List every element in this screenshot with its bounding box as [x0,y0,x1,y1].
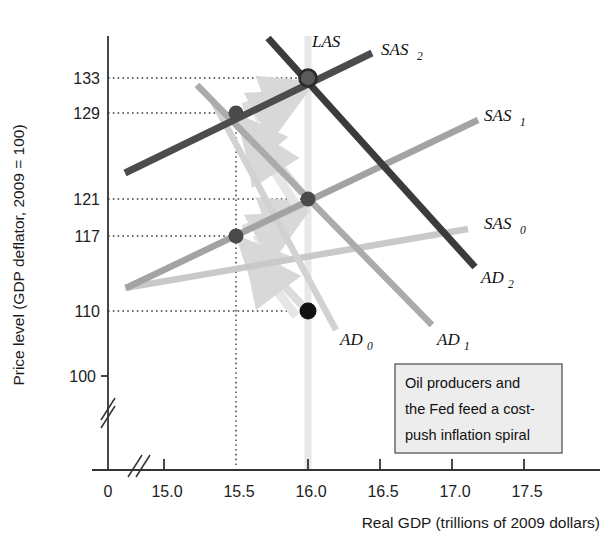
equilibrium-point-110 [300,303,317,320]
chart-canvas: 133 129 121 117 110 100 0 15.0 15.5 16.0… [0,0,613,545]
annotation-line-3: push inflation spiral [405,427,530,443]
sas2-label-sub: 2 [417,50,423,62]
ad0-label: AD [339,330,363,349]
ad2-curve [268,38,475,267]
y-tick-label-129: 129 [73,105,100,122]
ad2-label-sub: 2 [508,278,514,290]
x-tick-label-155: 15.5 [223,483,254,500]
y-tick-label-121: 121 [73,191,100,208]
sas0-label-group: SAS 0 [484,214,526,236]
x-tick-label-170: 17.0 [439,483,470,500]
sas2-label-group: SAS 2 [381,40,423,62]
sas2-label: SAS [381,40,409,59]
equilibrium-point-133 [300,70,317,87]
equilibrium-point-117 [229,229,244,244]
x-axis-break-2 [136,455,150,477]
sas1-label-group: SAS 1 [484,106,526,128]
ad0-label-sub: 0 [367,340,373,352]
y-axis-title: Price level (GDP deflator, 2009 = 100) [10,124,27,385]
ad0-label-group: AD 0 [339,330,373,352]
ad2-label-group: AD 2 [480,268,514,290]
x-axis-title: Real GDP (trillions of 2009 dollars) [362,514,600,531]
y-tick-label-133: 133 [73,70,100,87]
sas1-label: SAS [484,106,512,125]
ad1-label-group: AD 1 [436,330,470,352]
x-axis-break [128,455,142,477]
las-label: LAS [311,32,341,51]
x-tick-label-150: 15.0 [151,483,182,500]
x-tick-label-0: 0 [104,483,113,500]
ad1-label: AD [436,330,460,349]
x-tick-label-165: 16.5 [367,483,398,500]
ad1-label-sub: 1 [464,340,470,352]
x-tick-label-175: 17.5 [511,483,542,500]
sas0-label-sub: 0 [520,224,526,236]
annotation-line-1: Oil producers and [405,375,520,391]
chart-figure: 133 129 121 117 110 100 0 15.0 15.5 16.0… [0,0,613,545]
sas0-label: SAS [484,214,512,233]
ad2-label: AD [480,268,504,287]
y-tick-label-117: 117 [74,228,100,245]
x-tick-label-160: 16.0 [295,483,326,500]
equilibrium-point-129 [229,106,244,121]
y-tick-label-110: 110 [74,303,100,320]
sas1-label-sub: 1 [520,116,526,128]
annotation-line-2: the Fed feed a cost- [405,401,535,417]
y-tick-label-100: 100 [69,368,96,385]
equilibrium-point-121 [301,192,316,207]
